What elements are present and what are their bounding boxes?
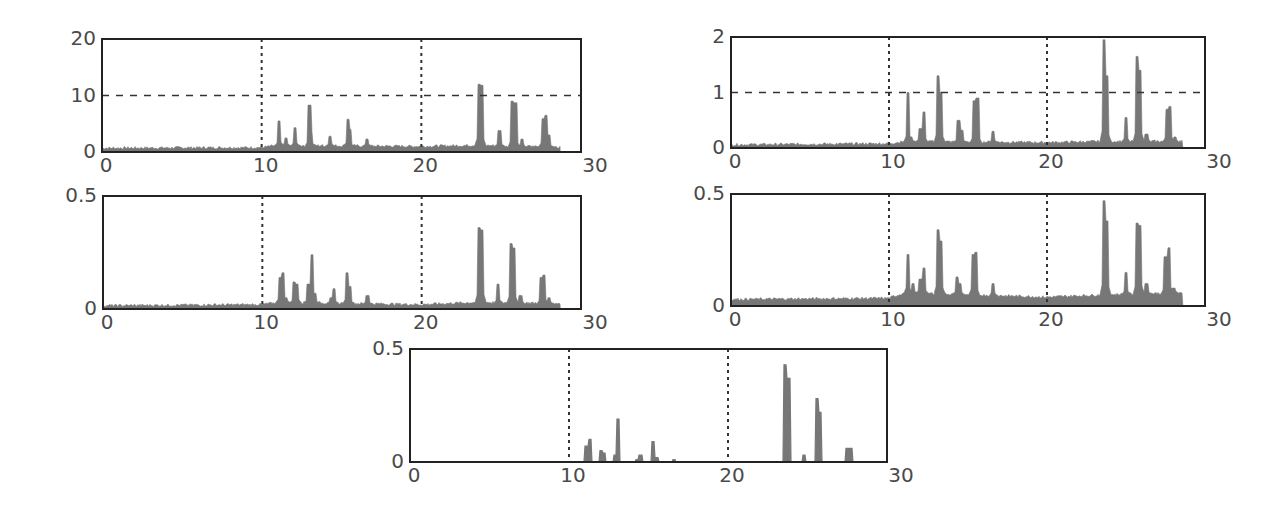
x-tick-label: 10	[560, 465, 585, 485]
plot-area	[102, 39, 581, 152]
x-tick-label: 30	[1206, 151, 1231, 171]
y-tick-label: 10	[36, 85, 96, 105]
y-tick-label: 0	[665, 137, 725, 157]
spectrum-series	[731, 40, 1183, 148]
plot-area	[410, 349, 887, 462]
plot-area	[731, 194, 1205, 306]
x-tick-label: 20	[413, 312, 438, 332]
plot-area	[731, 37, 1205, 148]
chart-panel-top-left: 010200102030	[102, 39, 581, 152]
y-tick-label: 0	[36, 141, 96, 161]
chart-panel-middle-right: 00.50102030	[731, 194, 1205, 306]
plot-area	[103, 196, 581, 309]
spectrum-series	[103, 228, 560, 309]
x-tick-label: 0	[729, 309, 742, 329]
y-tick-label: 0.5	[37, 185, 97, 205]
x-tick-label: 0	[729, 151, 742, 171]
x-tick-label: 30	[582, 312, 607, 332]
x-tick-label: 20	[1038, 151, 1063, 171]
x-tick-label: 20	[413, 155, 438, 175]
spectrum-series	[731, 201, 1183, 306]
x-tick-label: 10	[254, 312, 279, 332]
x-tick-label: 30	[1206, 309, 1231, 329]
y-tick-label: 0.5	[344, 338, 404, 358]
y-tick-label: 0	[665, 295, 725, 315]
x-tick-label: 30	[582, 155, 607, 175]
x-tick-label: 10	[880, 309, 905, 329]
y-tick-label: 0.5	[665, 183, 725, 203]
chart-panel-bottom-center: 00.50102030	[410, 349, 887, 462]
y-tick-label: 0	[37, 298, 97, 318]
y-tick-label: 2	[665, 26, 725, 46]
y-tick-label: 20	[36, 28, 96, 48]
x-tick-label: 20	[1038, 309, 1063, 329]
axes-frame	[731, 194, 1205, 306]
x-tick-label: 0	[408, 465, 421, 485]
y-tick-label: 1	[665, 82, 725, 102]
x-tick-label: 30	[888, 465, 913, 485]
chart-panel-middle-left: 00.50102030	[103, 196, 581, 309]
x-tick-label: 10	[880, 151, 905, 171]
x-tick-label: 0	[101, 312, 114, 332]
y-tick-label: 0	[344, 451, 404, 471]
x-tick-label: 0	[100, 155, 113, 175]
chart-panel-top-right: 0120102030	[731, 37, 1205, 148]
spectrum-series	[102, 84, 560, 152]
spectrum-series	[410, 365, 863, 462]
x-tick-label: 20	[719, 465, 744, 485]
x-tick-label: 10	[253, 155, 278, 175]
